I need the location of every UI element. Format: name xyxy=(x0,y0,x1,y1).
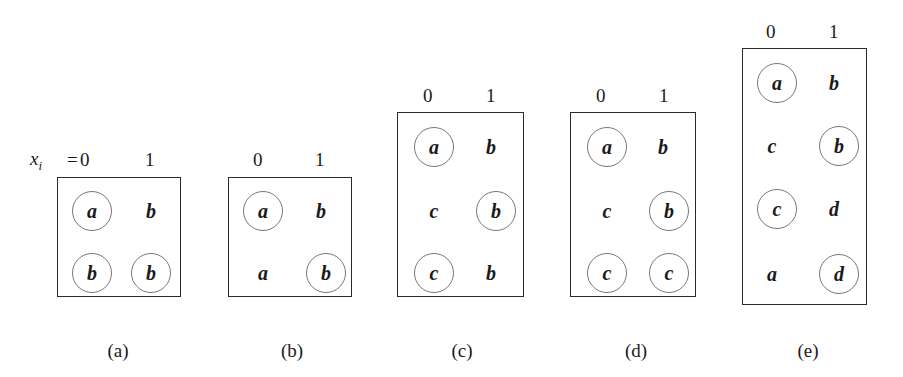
cell: b xyxy=(301,191,341,231)
cell: c xyxy=(587,191,627,231)
cell: b xyxy=(471,253,511,293)
column-header-1: 1 xyxy=(659,86,669,105)
cell-circled: a xyxy=(243,191,283,231)
cell: d xyxy=(814,189,854,229)
cell-circled: d xyxy=(819,254,859,294)
cell: b xyxy=(643,127,683,167)
column-header-0: 0 xyxy=(253,150,263,169)
cell-circled: b xyxy=(72,253,112,293)
column-header-0: 0 xyxy=(596,86,606,105)
column-header-1: 1 xyxy=(145,150,155,169)
cell-circled: a xyxy=(757,63,797,103)
column-header-0: 0 xyxy=(766,22,776,41)
column-header-0: 0 xyxy=(80,150,90,169)
cell: b xyxy=(814,63,854,103)
cell-circled: a xyxy=(587,127,627,167)
cell-circled: a xyxy=(414,127,454,167)
column-header-1: 1 xyxy=(829,22,839,41)
caption-a: (a) xyxy=(107,340,128,362)
cell: a xyxy=(752,254,792,294)
variable-label: xi xyxy=(30,148,42,174)
cell-circled: b xyxy=(306,253,346,293)
cell: a xyxy=(243,253,283,293)
cell-circled: c xyxy=(649,253,689,293)
cell-circled: b xyxy=(819,126,859,166)
column-header-0: 0 xyxy=(423,86,433,105)
cell-circled: b xyxy=(131,253,171,293)
cell: b xyxy=(131,191,171,231)
cell: c xyxy=(414,191,454,231)
caption-d: (d) xyxy=(625,340,647,362)
cell-circled: a xyxy=(72,191,112,231)
cell: c xyxy=(752,126,792,166)
cell-circled: b xyxy=(649,191,689,231)
caption-c: (c) xyxy=(451,340,472,362)
cell-circled: b xyxy=(476,191,516,231)
column-header-1: 1 xyxy=(486,86,496,105)
cell: b xyxy=(471,127,511,167)
caption-e: (e) xyxy=(797,340,818,362)
cell-circled: c xyxy=(587,253,627,293)
cell-circled: c xyxy=(757,189,797,229)
column-header-1: 1 xyxy=(315,150,325,169)
equals-sign: = xyxy=(67,150,78,169)
caption-b: (b) xyxy=(281,340,303,362)
cell-circled: c xyxy=(414,253,454,293)
